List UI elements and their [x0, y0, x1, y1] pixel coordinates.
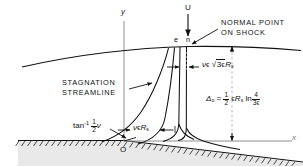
streamline-inner-left: [163, 47, 180, 141]
angle-expression: tan-1 12ν: [73, 119, 101, 133]
standoff-log-fraction: 43ϵ: [252, 92, 261, 106]
upper-offset-dimension: [167, 52, 199, 72]
standoff-half-fraction: 12: [223, 92, 229, 106]
normal-point-leader: [192, 29, 218, 44]
body-surface: [16, 141, 303, 167]
freestream-velocity-label: U: [185, 4, 191, 12]
sqrt-icon: √3ϵ: [212, 61, 225, 69]
lower-offset-radius-sub: s: [146, 126, 149, 132]
angle-exponent: -1: [84, 120, 89, 126]
normal-point-label-line1: NORMAL POINT: [221, 19, 285, 26]
figure-canvas: y x O U e n NORMAL POINT ON SHOCK STAGNA…: [0, 0, 303, 166]
x-axis-label: x: [292, 134, 296, 142]
upper-offset-epsilon: ϵ: [206, 60, 210, 69]
standoff-frac-den: 2: [223, 99, 229, 107]
angle-nu: ν: [97, 121, 101, 130]
standoff-equation: Δo = 12 ϵRs ln43ϵ: [206, 92, 260, 106]
standoff-log-den: 3ϵ: [252, 99, 261, 107]
angle-tan: tan: [73, 121, 84, 130]
shock-point-e-label: e: [174, 36, 178, 43]
shock-wave-curve: [22, 46, 301, 67]
origin-label: O: [120, 146, 126, 154]
shock-point-n-label: n: [186, 36, 190, 43]
normal-point-label-line2: ON SHOCK: [221, 29, 266, 36]
y-axis-label: y: [121, 8, 125, 16]
stagnation-leader: [129, 83, 152, 89]
upper-offset-radius-sub: s: [231, 63, 234, 69]
standoff-equals: =: [217, 94, 222, 103]
coordinate-axes: [124, 21, 292, 141]
stagnation-label-line1: STAGNATION: [62, 79, 115, 86]
standoff-symbol-sub: o: [211, 97, 214, 103]
standoff-log-num: 4: [252, 92, 261, 99]
lower-offset-expression: νϵRs: [133, 124, 149, 132]
standoff-frac-num: 1: [223, 92, 229, 99]
stagnation-label-line2: STREAMLINE: [62, 89, 116, 96]
upper-offset-expression: νϵ √3ϵRs: [202, 61, 234, 69]
standoff-radius-sub: s: [241, 97, 244, 103]
